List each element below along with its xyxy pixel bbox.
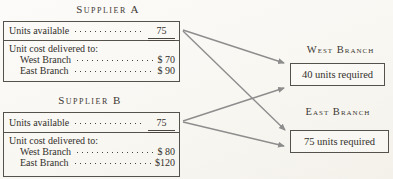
supplier-b-east-cost-row: East Branch $120 (4, 157, 179, 168)
east-branch-label: East Branch (20, 65, 69, 76)
arrow-supplier-b-to-west-branch (183, 88, 284, 121)
diagram-canvas: Supplier A Units available 75 Unit cost … (0, 0, 393, 179)
supplier-b-units-value: 75 (148, 117, 175, 133)
supplier-a-west-cost-row: West Branch $ 70 (4, 54, 179, 65)
supplier-a-east-cost: $ 90 (158, 65, 176, 76)
supplier-b-east-cost: $120 (155, 157, 175, 168)
supplier-b-cost-header: Unit cost delivered to: (4, 135, 179, 146)
cost-header-label: Unit cost delivered to: (9, 43, 98, 54)
west-branch-requirement: 40 units required (302, 69, 373, 80)
west-branch-label: West Branch (20, 54, 71, 65)
supplier-b-units-row: Units available 75 (4, 117, 179, 128)
dot-leader (73, 157, 151, 168)
west-branch-box: 40 units required (290, 63, 385, 86)
west-branch-title: West Branch (293, 44, 388, 55)
supplier-b-box: Units available 75 Unit cost delivered t… (3, 112, 180, 177)
supplier-a-units-row: Units available 75 (4, 25, 179, 36)
supplier-a-east-cost-row: East Branch $ 90 (4, 65, 179, 76)
supplier-a-box: Units available 75 Unit cost delivered t… (3, 21, 180, 82)
dot-leader (75, 146, 153, 157)
supplier-a-title: Supplier A (33, 3, 183, 15)
cost-header-label: Unit cost delivered to: (9, 135, 98, 146)
dot-leader (75, 54, 153, 65)
units-available-label: Units available (9, 25, 69, 36)
west-branch-label: West Branch (20, 146, 71, 157)
dot-leader (73, 117, 144, 128)
supplier-a-cost-header: Unit cost delivered to: (4, 43, 179, 54)
supplier-b-west-cost: $ 80 (158, 146, 176, 157)
dot-leader (73, 65, 154, 76)
supplier-b-west-cost-row: West Branch $ 80 (4, 146, 179, 157)
east-branch-box: 75 units required (290, 130, 389, 153)
east-branch-title: East Branch (290, 106, 386, 117)
east-branch-label: East Branch (20, 157, 69, 168)
east-branch-requirement: 75 units required (304, 136, 375, 147)
arrow-supplier-b-to-east-branch (183, 122, 284, 146)
supplier-b-title: Supplier B (15, 94, 165, 106)
arrow-supplier-a-to-east-branch (183, 31, 285, 130)
supplier-a-west-cost: $ 70 (158, 54, 176, 65)
supplier-a-units-value: 75 (148, 25, 175, 41)
units-available-label: Units available (9, 117, 69, 128)
dot-leader (73, 25, 144, 36)
